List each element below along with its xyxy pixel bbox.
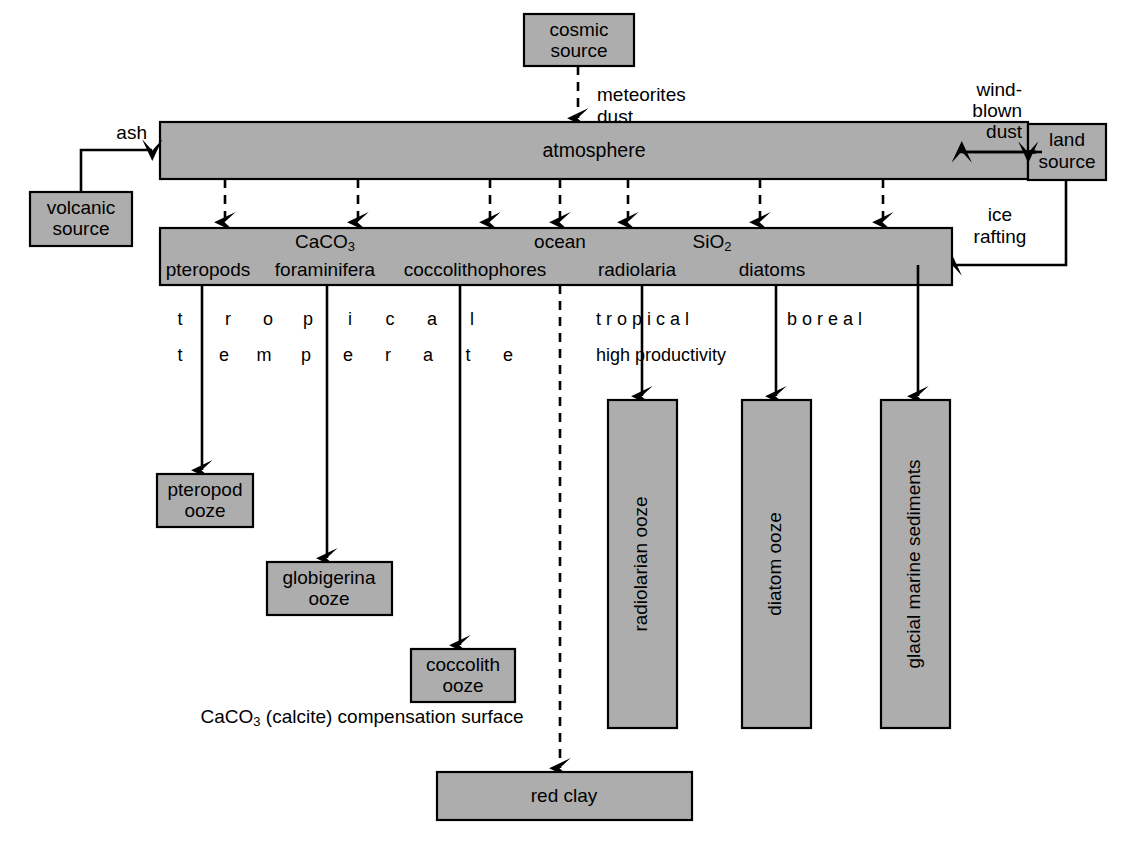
globigerina-ooze-label-line1: globigerina (283, 567, 376, 588)
zone-left-r2-c2: m (257, 345, 272, 365)
windblown-label-line2: blown (972, 100, 1022, 121)
zone-left-r1-c3: p (303, 309, 313, 329)
ice-rafting-label-line2: rafting (974, 226, 1027, 247)
coccolith-ooze-label-line2: ooze (442, 675, 483, 696)
ice-rafting-label-line1: ice (988, 204, 1012, 225)
atmosphere-label: atmosphere (543, 139, 646, 161)
land-source-label-line2: source (1038, 151, 1095, 172)
zone-left-r1-c0: t (177, 309, 182, 329)
windblown-label-line3: dust (986, 121, 1023, 142)
volcanic-source-label-line1: volcanic (47, 197, 116, 218)
meteorites-label: meteorites (597, 84, 686, 105)
cosmic-source-label-line1: cosmic (549, 19, 608, 40)
coccolith-ooze-label-line1: coccolith (426, 654, 500, 675)
zone-left-r2-c8: e (503, 345, 513, 365)
organism-foraminifera: foraminifera (275, 259, 376, 280)
zone-left-r2-c0: t (177, 345, 182, 365)
red-clay-label: red clay (531, 785, 598, 806)
zone-left-r1-c6: a (427, 309, 438, 329)
zone-left-r2-c6: a (423, 345, 434, 365)
sediment-flow-diagram: cosmic source meteorites dust atmosphere… (0, 0, 1123, 848)
zone-left-r2-c1: e (219, 345, 229, 365)
zone-left-r2-c3: p (301, 345, 311, 365)
diatom-ooze-label: diatom ooze (764, 512, 785, 616)
zone-left-r1-c7: l (470, 309, 474, 329)
organism-radiolaria: radiolaria (598, 259, 677, 280)
zone-left-r1-c4: i (348, 309, 352, 329)
zone-right-high-productivity: high productivity (596, 345, 726, 365)
zone-left-r1-c2: o (263, 309, 273, 329)
land-source-label-line1: land (1049, 129, 1085, 150)
caco3-label: CaCO3 (295, 231, 355, 254)
cosmic-source-label-line2: source (550, 40, 607, 61)
pteropod-ooze-label-line2: ooze (184, 500, 225, 521)
glacial-marine-sediments-label: glacial marine sediments (903, 459, 924, 668)
radiolarian-ooze-label: radiolarian ooze (630, 496, 651, 631)
globigerina-ooze-label-line2: ooze (308, 588, 349, 609)
organism-pteropods: pteropods (166, 259, 251, 280)
zone-left-r2-c5: r (385, 345, 391, 365)
organism-coccolithophores: coccolithophores (404, 259, 547, 280)
zone-left-r2-c4: e (343, 345, 353, 365)
arrow-volcanic-to-atmosphere (81, 150, 152, 192)
diagram-canvas: cosmic source meteorites dust atmosphere… (0, 0, 1123, 848)
pteropod-ooze-label-line1: pteropod (167, 479, 242, 500)
organism-diatoms: diatoms (739, 259, 806, 280)
windblown-label-line1: wind- (976, 79, 1022, 100)
zone-left-r2-c7: t (465, 345, 470, 365)
ccd-note: CaCO3 (calcite) compensation surface (201, 706, 524, 729)
zone-right-boreal: b o r e a l (787, 309, 862, 329)
ocean-label: ocean (534, 231, 586, 252)
zone-left-r1-c1: r (225, 309, 231, 329)
ash-label: ash (116, 122, 147, 143)
zone-left-r1-c5: c (386, 309, 395, 329)
volcanic-source-label-line2: source (52, 218, 109, 239)
